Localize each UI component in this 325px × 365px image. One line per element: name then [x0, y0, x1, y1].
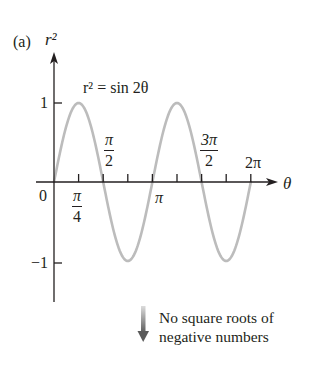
y-axis-label: r²	[45, 31, 57, 48]
down-arrow-icon	[138, 306, 150, 342]
annotation-line-1: No square roots of	[159, 308, 274, 327]
y-tick-label-1: 1	[40, 95, 48, 111]
x-tick-label-pi-over-4: π 4	[72, 188, 82, 225]
origin-label: 0	[39, 188, 47, 204]
fraction-bar	[72, 206, 82, 207]
y-tick-label-neg1: −1	[31, 255, 48, 271]
x-axis-label: θ	[283, 175, 291, 192]
x-tick-label-3pi-over-2: 3π 2	[200, 132, 218, 169]
x-ticks	[79, 174, 251, 182]
x-tick-label-pi: π	[155, 190, 163, 206]
annotation-line-2: negative numbers	[159, 327, 274, 346]
panel-label: (a)	[13, 34, 31, 50]
equation-text: r² = sin 2θ	[83, 79, 148, 96]
annotation-text: No square roots of negative numbers	[159, 308, 274, 346]
fraction-bar	[104, 150, 114, 151]
x-tick-label-pi-over-2: π 2	[104, 132, 114, 169]
x-tick-label-2pi: 2π	[245, 155, 261, 171]
equation-label: r² = sin 2θ	[83, 80, 148, 96]
fraction-bar	[200, 150, 218, 151]
